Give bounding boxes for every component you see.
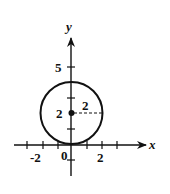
radius-label: 2 (82, 98, 89, 113)
y-tick-label-5: 5 (55, 60, 62, 75)
center-point (69, 110, 75, 116)
origin-label: 0 (61, 148, 68, 163)
x-tick-label-2: 2 (97, 150, 104, 165)
y-axis-label: y (64, 19, 72, 34)
x-axis-label: x (148, 137, 156, 152)
center-y-label: 2 (56, 106, 63, 121)
coordinate-plane: y x 5 2 2 0 -2 2 (0, 0, 170, 194)
x-tick-label-neg2: -2 (30, 150, 41, 165)
